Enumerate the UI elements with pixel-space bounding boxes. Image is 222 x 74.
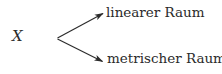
branch-label-linearer-raum: linearer Raum [106,6,205,20]
branching-diagram-figure: X linearer Raum metrischer Raum [0,0,222,74]
branch-arrow-linearer-raum [58,14,104,39]
root-node-label: X [12,29,23,44]
branch-arrow-metrischer-raum [58,39,103,62]
branch-label-metrischer-raum: metrischer Raum [107,52,222,66]
